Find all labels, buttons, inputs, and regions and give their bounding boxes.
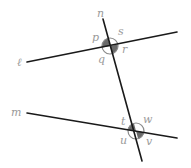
angle-diagram: n ℓ m p s q r t w u v	[0, 0, 191, 168]
label-t: t	[121, 115, 126, 128]
label-v: v	[146, 135, 153, 148]
label-r: r	[122, 43, 128, 56]
label-p: p	[92, 31, 99, 44]
label-u: u	[120, 134, 127, 147]
label-m: m	[11, 106, 21, 119]
label-w: w	[143, 113, 153, 126]
label-q: q	[98, 53, 105, 66]
label-s: s	[118, 25, 124, 38]
line-m	[27, 113, 177, 138]
label-l: ℓ	[17, 56, 22, 69]
label-n: n	[97, 7, 104, 20]
